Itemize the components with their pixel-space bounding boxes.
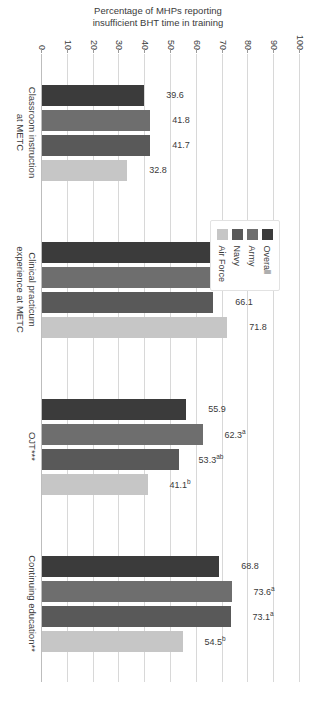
bar-slot: 73.1a bbox=[42, 606, 300, 627]
y-tick-label: 20 bbox=[89, 40, 99, 50]
rotated-figure-container: Percentage of MHPs reporting insufficien… bbox=[0, 0, 316, 708]
bar[interactable] bbox=[42, 556, 220, 577]
bar-slot: 73.6a bbox=[42, 581, 300, 602]
bar-value-label: 71.8 bbox=[249, 322, 267, 332]
bar-value-label: 32.8 bbox=[149, 165, 167, 175]
bar[interactable] bbox=[42, 242, 222, 263]
y-tick-label: 0 bbox=[37, 45, 47, 50]
axis-tickmark bbox=[273, 48, 274, 53]
bar-value-label: 62.3a bbox=[224, 428, 245, 440]
bar-slot: 41.8 bbox=[42, 110, 300, 131]
bar[interactable] bbox=[42, 581, 232, 602]
bar[interactable] bbox=[42, 449, 180, 470]
axis-tickmark bbox=[247, 48, 248, 53]
bar-value-label: 41.1b bbox=[169, 478, 190, 490]
bar-slot: 53.3ab bbox=[42, 449, 300, 470]
legend-item[interactable]: Army bbox=[247, 229, 258, 282]
legend-item-label: Navy bbox=[233, 245, 243, 266]
chart-legend: OverallArmyNavyAir Force bbox=[210, 220, 280, 291]
bar-group: 68.873.6a73.1a54.5b bbox=[42, 525, 300, 682]
bar-value-superscript: a bbox=[242, 428, 246, 435]
bar[interactable] bbox=[42, 317, 227, 338]
plot-area: 39.641.841.732.8Classroom instruction at… bbox=[42, 54, 300, 682]
bar-value-label: 73.6a bbox=[253, 585, 274, 597]
y-axis-title: Percentage of MHPs reporting insufficien… bbox=[0, 6, 316, 28]
bar-value-superscript: ab bbox=[217, 453, 224, 460]
bar-chart-figure: Percentage of MHPs reporting insufficien… bbox=[0, 0, 316, 708]
bar-value-superscript: a bbox=[271, 585, 275, 592]
bar-value-label: 39.6 bbox=[166, 90, 184, 100]
bar-slot: 54.5b bbox=[42, 631, 300, 652]
bar-value-superscript: a bbox=[270, 610, 274, 617]
legend-item-label: Army bbox=[248, 245, 258, 266]
y-tick-label: 100 bbox=[295, 35, 305, 50]
bar-value-label: 68.8 bbox=[242, 561, 260, 571]
bar-slot: 39.6 bbox=[42, 85, 300, 106]
bar-slot: 68.8 bbox=[42, 556, 300, 577]
legend-swatch-icon bbox=[262, 229, 273, 240]
bar-value-superscript: b bbox=[222, 635, 226, 642]
legend-swatch-icon bbox=[217, 229, 228, 240]
bar-value-label: 54.5b bbox=[204, 635, 225, 647]
bar-slot: 71.8 bbox=[42, 317, 300, 338]
bar-group: 39.641.841.732.8 bbox=[42, 54, 300, 211]
legend-swatch-icon bbox=[247, 229, 258, 240]
bar[interactable] bbox=[42, 424, 203, 445]
bar[interactable] bbox=[42, 267, 222, 288]
category-label: Clinical practicum experience at METC bbox=[14, 211, 38, 368]
axis-tickmark bbox=[67, 48, 68, 53]
bar-slot: 41.7 bbox=[42, 135, 300, 156]
y-tick-label: 10 bbox=[63, 40, 73, 50]
category-label: Classroom instruction at METC bbox=[14, 54, 38, 211]
axis-tickmark bbox=[222, 48, 223, 53]
bar-slot: 55.9 bbox=[42, 399, 300, 420]
bar-group: 55.962.3a53.3ab41.1b bbox=[42, 368, 300, 525]
bar[interactable] bbox=[42, 631, 183, 652]
bar[interactable] bbox=[42, 399, 186, 420]
axis-tickmark bbox=[118, 48, 119, 53]
category-label: Continuing education** bbox=[26, 525, 38, 682]
y-tick-label: 50 bbox=[166, 40, 176, 50]
y-tick-label: 40 bbox=[140, 40, 150, 50]
bar-value-superscript: b bbox=[187, 478, 191, 485]
bar-value-label: 53.3ab bbox=[199, 453, 224, 465]
bar-slot: 32.8 bbox=[42, 160, 300, 181]
bar-value-label: 55.9 bbox=[208, 404, 226, 414]
bar[interactable] bbox=[42, 292, 213, 313]
axis-tickmark bbox=[93, 48, 94, 53]
bar[interactable] bbox=[42, 606, 231, 627]
bar-value-label: 73.1a bbox=[252, 610, 273, 622]
legend-item-label: Overall bbox=[263, 245, 273, 274]
bar[interactable] bbox=[42, 135, 150, 156]
axis-tickmark bbox=[299, 48, 300, 53]
axis-tickmark bbox=[170, 48, 171, 53]
bar[interactable] bbox=[42, 474, 148, 495]
axis-tickmark bbox=[196, 48, 197, 53]
bar-slot: 66.1 bbox=[42, 292, 300, 313]
axis-tickmark bbox=[41, 48, 42, 53]
bar-value-label: 41.8 bbox=[172, 115, 190, 125]
legend-item[interactable]: Air Force bbox=[217, 229, 228, 282]
y-tick-label: 90 bbox=[269, 40, 279, 50]
y-tick-label: 70 bbox=[218, 40, 228, 50]
bar[interactable] bbox=[42, 85, 144, 106]
y-tick-label: 60 bbox=[192, 40, 202, 50]
y-axis-tick-labels: 0102030405060708090100 bbox=[42, 26, 300, 52]
legend-item[interactable]: Navy bbox=[232, 229, 243, 282]
legend-item[interactable]: Overall bbox=[262, 229, 273, 282]
bar-slot: 62.3a bbox=[42, 424, 300, 445]
y-tick-label: 80 bbox=[243, 40, 253, 50]
bar-slot: 41.1b bbox=[42, 474, 300, 495]
bar[interactable] bbox=[42, 160, 127, 181]
axis-tickmark bbox=[144, 48, 145, 53]
category-label: OJT*** bbox=[26, 368, 38, 525]
bar-value-label: 41.7 bbox=[172, 140, 190, 150]
bar-value-label: 66.1 bbox=[235, 297, 253, 307]
y-tick-label: 30 bbox=[114, 40, 124, 50]
legend-item-label: Air Force bbox=[218, 245, 228, 282]
legend-swatch-icon bbox=[232, 229, 243, 240]
bar[interactable] bbox=[42, 110, 150, 131]
